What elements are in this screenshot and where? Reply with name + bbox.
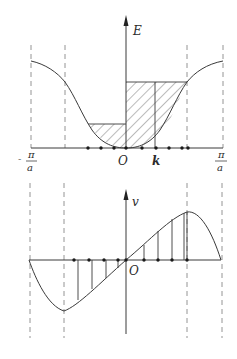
left-limit-label: - π a	[18, 149, 37, 173]
band-diagram: E O k - π a π a	[0, 0, 237, 359]
velocity-plot: v O	[29, 183, 222, 338]
left-limit-denominator: a	[27, 162, 33, 173]
origin-label-top: O	[118, 154, 128, 168]
right-limit-denominator: a	[217, 162, 223, 173]
right-limit-numerator: π	[217, 149, 225, 160]
velocity-axis-arrow-icon	[124, 189, 129, 200]
k-label: k	[152, 154, 160, 168]
left-limit-numerator: π	[27, 149, 35, 160]
origin-label-bottom: O	[129, 264, 139, 278]
occupied-region-left	[80, 120, 130, 150]
occupied-region-right	[80, 80, 190, 150]
energy-plot: E O k - π a π a	[18, 15, 227, 173]
energy-axis-label: E	[132, 24, 142, 38]
velocity-stems	[78, 212, 187, 300]
right-limit-label: π a	[215, 149, 227, 173]
left-limit-sign: -	[18, 153, 22, 164]
velocity-axis-label: v	[132, 195, 139, 209]
velocity-curve	[29, 212, 221, 311]
energy-axis-arrow-icon	[124, 15, 129, 26]
